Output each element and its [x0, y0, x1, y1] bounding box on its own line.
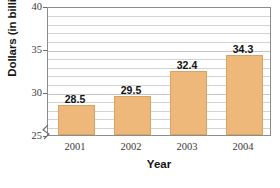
bar-chart: Dollars (in billions) 25303540 Year 28.5…	[0, 0, 280, 188]
bars-group	[48, 8, 270, 135]
x-axis-tick-label: 2003	[165, 141, 209, 152]
x-axis-tick-label: 2002	[109, 141, 153, 152]
y-axis-tick-label: 40	[20, 2, 42, 12]
bar	[58, 105, 95, 135]
bar	[170, 71, 207, 135]
axis-break-icon	[39, 124, 53, 140]
y-axis-tick-mark	[43, 50, 47, 51]
bar-value-label: 32.4	[167, 59, 207, 71]
x-axis-title: Year	[47, 158, 271, 170]
plot-area	[47, 7, 271, 136]
y-axis-tick-mark	[43, 93, 47, 94]
bar-value-label: 29.5	[111, 84, 151, 96]
y-axis-tick-label: 30	[20, 88, 42, 98]
y-axis-tick-label: 35	[20, 45, 42, 55]
bar	[226, 55, 263, 135]
bar-value-label: 28.5	[55, 93, 95, 105]
x-axis-tick-label: 2004	[221, 141, 265, 152]
y-axis-tick-mark	[43, 7, 47, 8]
y-axis-tick-labels: 25303540	[20, 0, 42, 188]
y-axis-tick-mark	[43, 136, 47, 137]
bar	[114, 96, 151, 135]
x-axis-tick-label: 2001	[53, 141, 97, 152]
bar-value-label: 34.3	[223, 43, 263, 55]
